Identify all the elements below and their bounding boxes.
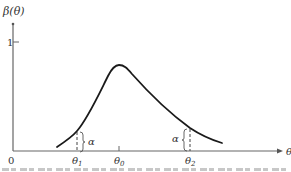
power-curve bbox=[57, 65, 222, 147]
theta2-marker: θ2 bbox=[185, 129, 196, 168]
origin-label: 0 bbox=[8, 155, 14, 166]
x-axis: θ 0 bbox=[8, 146, 291, 166]
y-tick-1-label: 1 bbox=[7, 37, 13, 48]
power-function-figure: β(θ) 1 θ 0 θ1 θ0 θ2 α bbox=[0, 0, 291, 172]
theta1-marker: θ1 bbox=[72, 132, 83, 168]
alpha-right-label: α bbox=[172, 133, 179, 144]
chart-canvas: β(θ) 1 θ 0 θ1 θ0 θ2 α bbox=[0, 0, 291, 172]
alpha-brace-left: α bbox=[80, 132, 95, 152]
y-axis-label: β(θ) bbox=[2, 5, 25, 18]
y-axis-arrow-icon bbox=[12, 23, 15, 26]
brace-icon bbox=[182, 129, 187, 151]
theta0-marker: θ0 bbox=[114, 146, 125, 168]
x-axis-arrow-icon bbox=[277, 149, 283, 154]
x-axis-label: θ bbox=[286, 146, 291, 157]
alpha-left-label: α bbox=[88, 136, 95, 147]
brace-icon bbox=[80, 132, 85, 152]
alpha-brace-right: α bbox=[172, 129, 187, 151]
y-axis: β(θ) 1 bbox=[2, 5, 25, 151]
cropped-caption bbox=[2, 166, 289, 172]
